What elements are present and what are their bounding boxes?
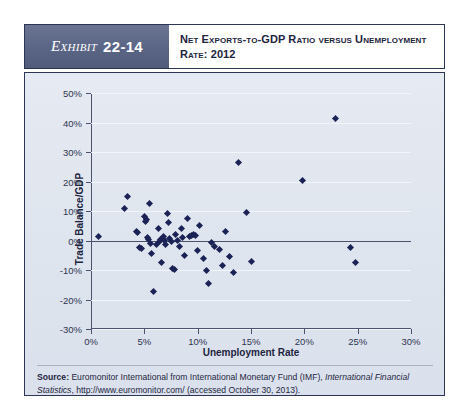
data-point xyxy=(352,259,359,266)
x-tick-label: 15% xyxy=(241,336,260,347)
data-point xyxy=(235,159,242,166)
y-tick-label: 50% xyxy=(63,88,82,99)
y-tick xyxy=(86,211,91,212)
source-note: Source: Euromonitor International from I… xyxy=(37,371,435,397)
x-tick xyxy=(411,329,412,334)
y-tick-label: 20% xyxy=(63,176,82,187)
gridline xyxy=(91,211,411,212)
y-tick-label: 10% xyxy=(63,206,82,217)
exhibit-label: Exhibit xyxy=(51,38,97,55)
data-point xyxy=(205,280,212,287)
data-point xyxy=(203,266,210,273)
data-point xyxy=(134,229,141,236)
exhibit-body-panel: Trade Balance/GDP -30%-20%-10%0%10%20%30… xyxy=(24,72,445,396)
x-tick xyxy=(358,329,359,334)
y-tick-label: -30% xyxy=(60,324,82,335)
gridline xyxy=(91,93,411,94)
y-tick-label: 30% xyxy=(63,147,82,158)
data-point xyxy=(332,115,339,122)
y-tick xyxy=(86,300,91,301)
data-point xyxy=(196,222,203,229)
y-tick xyxy=(86,270,91,271)
x-tick xyxy=(91,329,92,334)
data-point xyxy=(150,288,157,295)
x-tick xyxy=(251,329,252,334)
data-point xyxy=(183,215,190,222)
gridline xyxy=(91,270,411,271)
x-tick-label: 5% xyxy=(137,336,151,347)
data-point xyxy=(226,253,233,260)
x-tick-label: 10% xyxy=(188,336,207,347)
x-tick xyxy=(198,329,199,334)
y-tick xyxy=(86,123,91,124)
source-text-1: Euromonitor International from Internati… xyxy=(69,372,325,382)
plot-area: -30%-20%-10%0%10%20%30%40%50%0%5%10%15%2… xyxy=(91,93,411,329)
x-tick-label: 30% xyxy=(401,336,420,347)
data-point xyxy=(124,193,131,200)
gridline xyxy=(91,123,411,124)
data-point xyxy=(95,233,102,240)
exhibit-page: Exhibit 22-14 Net Exports-to-GDP Ratio v… xyxy=(0,0,469,420)
data-point xyxy=(247,258,254,265)
exhibit-title: Net Exports-to-GDP Ratio versus Unemploy… xyxy=(180,32,435,61)
data-point xyxy=(181,252,188,259)
y-tick-label: 0% xyxy=(68,235,82,246)
y-tick-label: -10% xyxy=(60,265,82,276)
gridline xyxy=(91,182,411,183)
data-point xyxy=(165,219,172,226)
source-label: Source: xyxy=(37,372,69,382)
data-point xyxy=(243,209,250,216)
x-tick-label: 25% xyxy=(348,336,367,347)
gridline xyxy=(91,152,411,153)
data-point xyxy=(222,228,229,235)
exhibit-number: 22-14 xyxy=(103,38,143,55)
data-point xyxy=(199,255,206,262)
x-tick xyxy=(144,329,145,334)
x-tick xyxy=(304,329,305,334)
y-tick xyxy=(86,93,91,94)
exhibit-header: Exhibit 22-14 Net Exports-to-GDP Ratio v… xyxy=(24,24,445,69)
data-point xyxy=(146,200,153,207)
data-point xyxy=(138,245,145,252)
gridline xyxy=(91,300,411,301)
x-tick-label: 20% xyxy=(295,336,314,347)
y-tick xyxy=(86,182,91,183)
data-point xyxy=(219,262,226,269)
exhibit-title-cell: Net Exports-to-GDP Ratio versus Unemploy… xyxy=(169,25,444,68)
data-point xyxy=(148,250,155,257)
data-point xyxy=(176,243,183,250)
data-point xyxy=(347,244,354,251)
source-text-2: , http://www.euromonitor.com/ (accessed … xyxy=(71,385,300,395)
data-point xyxy=(158,259,165,266)
source-divider xyxy=(37,365,433,366)
data-point xyxy=(178,225,185,232)
x-tick-label: 0% xyxy=(84,336,98,347)
data-point xyxy=(155,225,162,232)
exhibit-tag: Exhibit 22-14 xyxy=(25,25,169,68)
zero-reference-line xyxy=(91,241,411,242)
data-point xyxy=(194,247,201,254)
x-axis-title: Unemployment Rate xyxy=(91,347,411,358)
y-tick-label: 40% xyxy=(63,117,82,128)
scatter-chart: Trade Balance/GDP -30%-20%-10%0%10%20%30… xyxy=(31,79,439,359)
y-tick xyxy=(86,152,91,153)
y-tick xyxy=(86,241,91,242)
y-tick-label: -20% xyxy=(60,294,82,305)
